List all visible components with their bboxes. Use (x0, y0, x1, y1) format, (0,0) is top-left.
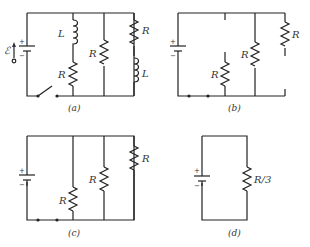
resistor-c2 (100, 167, 108, 191)
emf-arrow-icon (12, 42, 16, 47)
inductor-a1 (73, 20, 78, 47)
battery-c-plus: + (19, 167, 25, 175)
label-R: R (57, 69, 66, 80)
label-L: L (141, 68, 149, 79)
battery-b-plus: + (170, 38, 176, 46)
caption-c: (c) (68, 228, 81, 238)
label-R: R (141, 25, 150, 36)
circuit-figure: + − ℰ L R R R L (a) + − (0, 0, 310, 247)
resistor-c3 (130, 146, 138, 170)
emf-label: ℰ (4, 45, 11, 56)
battery-a-minus: − (19, 52, 25, 60)
resistor-b1 (221, 62, 229, 86)
resistor-b2 (251, 42, 259, 66)
label-R: R (141, 153, 150, 164)
label-R: R (58, 195, 67, 206)
battery-d-plus: + (194, 167, 200, 175)
circuit-c: + − R R R (c) (19, 136, 150, 238)
resistor-a2 (100, 40, 108, 64)
resistor-b3 (281, 22, 289, 46)
label-R3: R/3 (253, 174, 271, 185)
label-R: R (240, 49, 249, 60)
caption-d: (d) (228, 228, 241, 238)
resistor-a3 (130, 20, 138, 44)
label-R: R (88, 48, 97, 59)
label-R: R (210, 69, 219, 80)
label-L: L (57, 28, 65, 39)
resistor-c1 (69, 187, 77, 211)
caption-a: (a) (68, 103, 81, 113)
battery-b-minus: − (170, 52, 176, 60)
circuit-d: + − R/3 (d) (194, 136, 271, 238)
circuit-b: + − R R R (b) (170, 13, 300, 113)
caption-b: (b) (228, 103, 241, 113)
circuit-a: + − ℰ L R R R L (a) (4, 13, 150, 113)
label-R: R (291, 29, 300, 40)
switch-a (38, 86, 52, 96)
label-R: R (88, 174, 97, 185)
battery-c-minus: − (19, 181, 25, 189)
resistor-d (243, 167, 251, 191)
resistor-a1 (69, 62, 77, 86)
inductor-a3 (134, 58, 139, 82)
battery-d-minus: − (194, 182, 200, 190)
battery-a-plus: + (19, 38, 25, 46)
circuit-a-wires (27, 13, 134, 96)
